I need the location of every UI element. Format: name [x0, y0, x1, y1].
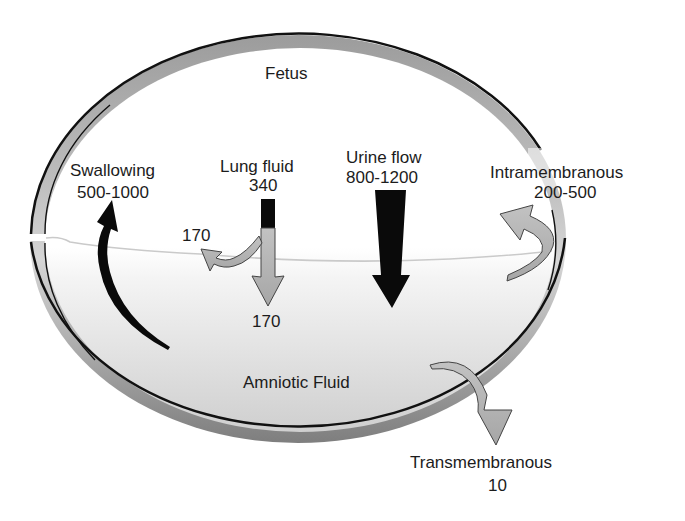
intramembranous-value: 200-500 — [534, 183, 596, 202]
amniotic-fluid-flow-diagram: Fetus Amniotic Fluid Swallowing 500-1000… — [0, 0, 685, 521]
transmembranous-value: 10 — [488, 476, 507, 495]
urine-flow-value: 800-1200 — [346, 168, 418, 187]
urine-flow-label: Urine flow — [346, 148, 422, 167]
diagram-canvas — [0, 0, 685, 521]
swallowing-value: 500-1000 — [77, 183, 149, 202]
lung-fluid-label: Lung fluid — [220, 157, 294, 176]
lung-fluid-to-fluid-value: 170 — [252, 312, 280, 331]
swallowing-label: Swallowing — [70, 161, 155, 180]
lung-fluid-value: 340 — [249, 176, 277, 195]
intramembranous-label: Intramembranous — [490, 163, 623, 182]
amniotic-fluid-label: Amniotic Fluid — [243, 373, 350, 392]
lung-fluid-swallowed-value: 170 — [182, 226, 210, 245]
fetus-label: Fetus — [265, 64, 308, 83]
transmembranous-label: Transmembranous — [410, 453, 552, 472]
